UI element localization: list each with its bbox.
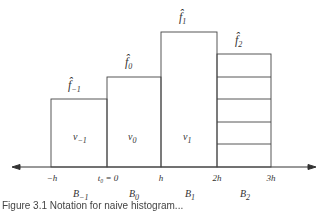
volume-label-1: ν1 (183, 131, 191, 145)
volume-label-0: ν0 (128, 131, 136, 145)
bar-bin-2-stripes (217, 77, 271, 144)
bin-label-1: B1 (185, 188, 195, 202)
tick-minus-h: −h (47, 173, 58, 183)
tick-2h: 2h (213, 173, 223, 183)
tick-h: h (159, 173, 164, 183)
bar-bin-minus-1 (51, 99, 107, 167)
volume-label-minus-1: ν−1 (73, 131, 87, 145)
bar-bin-2 (217, 54, 271, 167)
arrow-left-icon (12, 165, 20, 170)
density-label-minus-1: f̂−1 (68, 77, 81, 94)
histogram-diagram: f̂−1 f̂0 f̂1 f̂2 ν−1 ν0 ν1 −h t₀ = 0 h 2… (0, 0, 328, 212)
figure-caption: Figure 3.1 Notation for naive histogram.… (2, 200, 183, 211)
bin-label-2: B2 (240, 188, 250, 202)
bar-bin-1 (161, 32, 217, 167)
tick-3h: 3h (266, 173, 277, 183)
density-label-1: f̂1 (179, 9, 186, 26)
density-label-2: f̂2 (235, 32, 242, 49)
bar-bin-0 (107, 77, 161, 167)
arrow-right-icon (308, 165, 316, 170)
density-label-0: f̂0 (125, 54, 132, 71)
tick-t0: t₀ = 0 (98, 173, 119, 183)
